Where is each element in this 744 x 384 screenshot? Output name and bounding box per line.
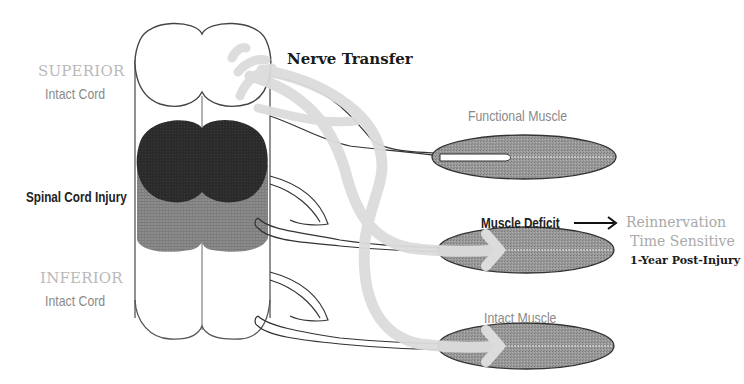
- nerve-transfer-paths: [232, 47, 498, 347]
- time-sensitive-label: Time Sensitive: [630, 234, 735, 248]
- deficit-arrow: [574, 217, 616, 229]
- spinal-cord-injury-label: Spinal Cord Injury: [26, 189, 127, 204]
- functional-muscle-label: Functional Muscle: [468, 108, 567, 123]
- muscle-deficit-label: Muscle Deficit: [481, 215, 560, 230]
- inferior-label: INFERIOR: [40, 271, 123, 286]
- superior-label: SUPERIOR: [38, 64, 124, 79]
- superior-intact-cord-label: Intact Cord: [45, 86, 105, 101]
- muscle-functional: [432, 135, 616, 179]
- injury-dark-lobes: [137, 120, 268, 202]
- intact-muscle-label: Intact Muscle: [484, 310, 556, 325]
- nerve-transfer-diagram: SUPERIOR Intact Cord Spinal Cord Injury …: [0, 0, 744, 384]
- reinnervation-label: Reinnervation: [626, 215, 726, 229]
- inferior-intact-cord-label: Intact Cord: [45, 293, 105, 308]
- one-year-post-injury-label: 1-Year Post-Injury: [630, 255, 740, 266]
- nerve-transfer-label: Nerve Transfer: [287, 52, 413, 67]
